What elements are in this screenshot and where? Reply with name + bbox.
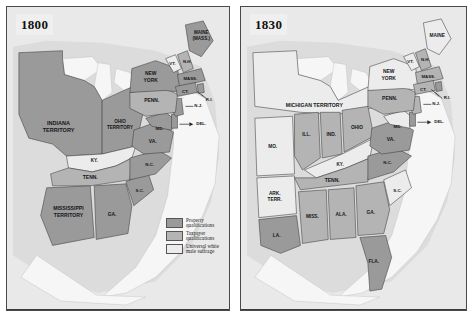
map-label-ohio-territory: OHIO	[114, 119, 126, 124]
map-label-maine-district: (MASS.)	[193, 36, 211, 41]
map-label-kentucky: KY.	[91, 158, 98, 163]
map-label-florida: FLA.	[369, 259, 380, 264]
legend-text-universal: Universal white male suffrage	[186, 244, 219, 255]
map-label-maryland: MD.	[156, 126, 164, 131]
map-label-maine: MAINE	[430, 33, 445, 38]
legend-row-property: Property qualifications	[166, 218, 219, 229]
map-label-new-hampshire: N.H.	[183, 59, 192, 64]
map-label-massachusetts: MASS.	[183, 76, 197, 81]
map-label-kentucky: KY.	[337, 162, 344, 167]
legend-row-taxpayer: Taxpayer qualifications	[166, 231, 219, 242]
map-panel-1800: .prop{fill:#9a9a9a;stroke:#3c3c3c;stroke…	[6, 6, 230, 311]
map-label-pennsylvania: PENN.	[382, 96, 398, 101]
map-label-mississippi-territory: MISSISSIPPI	[53, 205, 84, 211]
map-label-indiana: IND.	[326, 132, 335, 137]
map-label-tennessee: TENN.	[325, 178, 340, 183]
map-label-indiana-territory: INDIANA	[47, 120, 70, 126]
map-label-indiana-territory: TERRITORY	[43, 127, 75, 133]
legend-swatch-universal	[166, 244, 183, 254]
map-label-new-york: NEW	[383, 69, 395, 74]
map-label-mississippi: MISS.	[306, 214, 319, 219]
map-label-connecticut: CT.	[182, 89, 189, 94]
map-label-south-carolina: S.C.	[136, 188, 144, 193]
map-label-delaware: DEL.	[434, 119, 444, 124]
map-label-connecticut: CT.	[420, 87, 427, 92]
map-label-illinois: ILL.	[302, 132, 310, 137]
year-label-1830: 1830	[250, 14, 287, 35]
map-label-new-york: YORK	[382, 76, 397, 81]
suffrage-maps-figure: .prop{fill:#9a9a9a;stroke:#3c3c3c;stroke…	[0, 0, 473, 323]
map-label-georgia: GA.	[108, 212, 117, 217]
map-panel-1830: MICHIGAN TERRITORYMO.ILL.IND.OHIOKY.ARK.…	[240, 6, 467, 311]
map-label-new-jersey: N.J.	[194, 103, 202, 108]
legend-text-taxpayer: Taxpayer qualifications	[186, 231, 214, 242]
map-label-arkansas-territory: ARK.	[269, 191, 281, 196]
map-label-maryland: MD.	[394, 124, 402, 129]
map-label-virginia: VA.	[387, 137, 396, 142]
map-label-rhode-island: R.I.	[206, 97, 213, 102]
legend-swatch-taxpayer	[166, 231, 183, 241]
map-label-new-jersey: N.J.	[432, 101, 440, 106]
map-label-massachusetts: MASS.	[421, 74, 435, 79]
map-label-mississippi-territory: TERRITORY	[54, 212, 84, 218]
map-label-new-hampshire: N.H.	[421, 57, 430, 62]
map-label-georgia: GA.	[367, 210, 375, 215]
map-label-tennessee: TENN.	[83, 175, 98, 180]
map-label-new-york: NEW	[145, 71, 157, 76]
map-label-arkansas-territory: TERR.	[268, 197, 282, 202]
map-label-vermont: VT.	[169, 61, 175, 66]
map-label-south-carolina: S.C.	[393, 188, 401, 193]
map-label-rhode-island: R.I.	[444, 95, 451, 100]
map-1800-graphic: .prop{fill:#9a9a9a;stroke:#3c3c3c;stroke…	[7, 7, 229, 310]
map-label-louisiana: LA.	[273, 233, 281, 238]
map-label-missouri: MO.	[268, 144, 277, 149]
map-label-alabama: ALA.	[336, 212, 347, 217]
legend-1800: Property qualifications Taxpayer qualifi…	[166, 218, 219, 256]
map-label-virginia: VA.	[149, 139, 158, 144]
map-label-north-carolina: N.C.	[383, 160, 392, 165]
legend-text-property: Property qualifications	[186, 218, 214, 229]
map-label-michigan-territory: MICHIGAN TERRITORY	[286, 102, 344, 108]
map-label-pennsylvania: PENN.	[144, 98, 160, 103]
map-label-maine-district: MAINE	[194, 30, 209, 35]
map-label-ohio: OHIO	[351, 125, 363, 130]
year-label-1800: 1800	[16, 14, 53, 35]
map-label-new-york: YORK	[144, 78, 159, 83]
map-label-delaware: DEL.	[196, 121, 206, 126]
map-label-north-carolina: N.C.	[145, 162, 154, 167]
map-label-ohio-territory: TERRITORY	[107, 125, 133, 130]
legend-row-universal: Universal white male suffrage	[166, 244, 219, 255]
legend-swatch-property	[166, 218, 183, 228]
map-1830-graphic: MICHIGAN TERRITORYMO.ILL.IND.OHIOKY.ARK.…	[241, 7, 466, 310]
map-label-vermont: VT.	[407, 59, 413, 64]
